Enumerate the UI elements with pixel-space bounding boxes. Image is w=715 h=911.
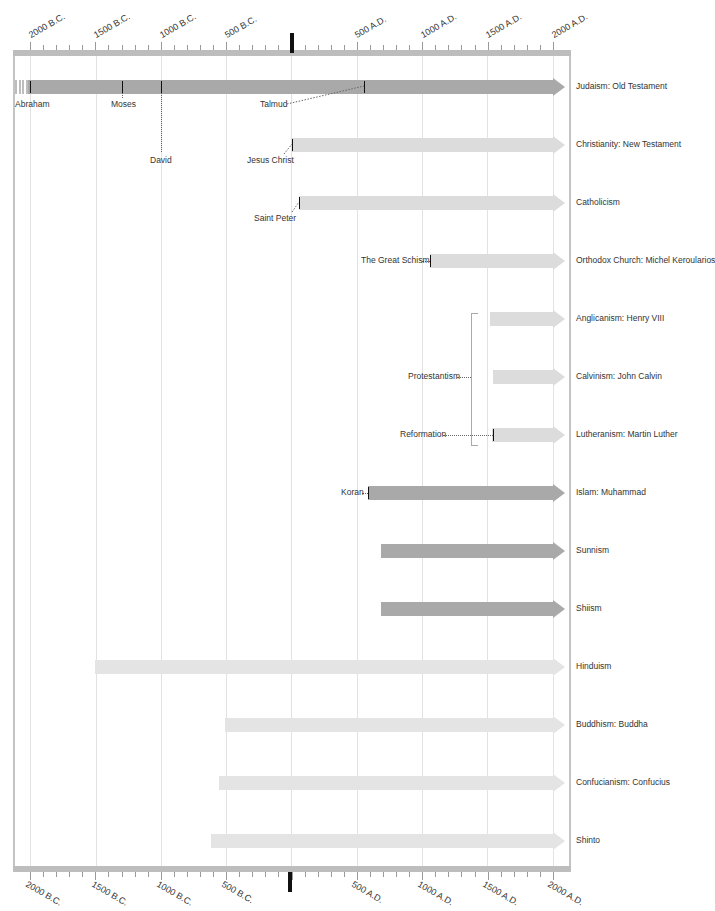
axis-tick	[135, 872, 136, 877]
bottom-tick-label: 1000 A.D.	[416, 879, 455, 907]
row-label-catholicism: Catholicism	[576, 197, 620, 207]
axis-tick	[357, 872, 358, 880]
axis-tick	[43, 45, 44, 50]
event-abraham: Abraham	[15, 99, 50, 109]
axis-tick	[278, 45, 279, 50]
axis-tick	[174, 45, 175, 50]
bar-lutheranism	[492, 428, 566, 442]
axis-tick	[488, 42, 489, 50]
reformation-marker	[493, 429, 494, 441]
moses-leader	[122, 93, 123, 98]
row-label-buddhism: Buddhism: Buddha	[576, 719, 648, 729]
axis-tick	[148, 872, 149, 877]
event-jesus-christ: Jesus Christ	[247, 155, 294, 165]
axis-tick	[435, 45, 436, 50]
axis-tick	[148, 45, 149, 50]
axis-tick	[213, 45, 214, 50]
axis-tick	[278, 872, 279, 877]
top-tick-label: 1000 B.C.	[158, 11, 198, 40]
axis-tick	[226, 42, 227, 50]
event-reformation: Reformation	[400, 429, 446, 439]
bar-catholicism	[299, 196, 566, 210]
axis-tick	[187, 45, 188, 50]
top-tick-label: 1000 A.D.	[419, 12, 458, 40]
axis-tick	[475, 872, 476, 877]
gridline-1500bc	[96, 56, 97, 866]
axis-tick	[135, 45, 136, 50]
axis-tick	[475, 45, 476, 50]
gridline-2000bc	[30, 56, 31, 866]
bar-shiism	[381, 602, 566, 616]
david-leader	[161, 93, 162, 152]
top-tick-label: 2000 B.C.	[27, 11, 67, 40]
abraham-marker	[30, 81, 31, 93]
bar-confucianism	[219, 776, 566, 790]
row-label-anglicanism: Anglicanism: Henry VIII	[576, 313, 664, 323]
axis-tick	[331, 872, 332, 877]
axis-tick	[370, 45, 371, 50]
axis-tick	[265, 45, 266, 50]
row-label-christianity: Christianity: New Testament	[576, 139, 681, 149]
bottom-tick-label: 500 A.D.	[350, 879, 385, 905]
reformation-leader	[443, 435, 493, 436]
event-saint-peter: Saint Peter	[254, 213, 296, 223]
axis-tick	[370, 872, 371, 877]
axis-tick	[239, 45, 240, 50]
bar-calvinism	[493, 370, 566, 384]
axis-tick	[435, 872, 436, 877]
bar-christianity	[292, 138, 566, 152]
axis-tick	[43, 872, 44, 877]
axis-tick	[448, 45, 449, 50]
event-talmud: Talmud	[260, 99, 287, 109]
row-label-lutheranism: Lutheranism: Martin Luther	[576, 429, 678, 439]
great-schism-marker	[430, 255, 431, 267]
bar-anglicanism	[490, 312, 566, 326]
event-david: David	[150, 155, 172, 165]
axis-tick	[187, 872, 188, 877]
axis-tick	[396, 872, 397, 877]
row-label-shiism: Shiism	[576, 603, 602, 613]
axis-tick	[305, 45, 306, 50]
event-moses: Moses	[111, 99, 136, 109]
axis-tick	[56, 45, 57, 50]
gridline-0	[291, 56, 292, 866]
bar-orthodox	[430, 254, 566, 268]
axis-tick	[305, 872, 306, 877]
row-label-hinduism: Hinduism	[576, 661, 611, 671]
axis-tick	[292, 872, 293, 880]
axis-tick	[540, 45, 541, 50]
top-tick-label: 500 A.D.	[353, 14, 388, 40]
axis-tick	[318, 872, 319, 877]
axis-tick	[514, 45, 515, 50]
axis-tick	[69, 45, 70, 50]
axis-tick	[396, 45, 397, 50]
gridline-1000bc	[161, 56, 162, 866]
bar-buddhism	[225, 718, 566, 732]
bottom-tick-label: 1000 B.C.	[155, 879, 195, 908]
bottom-tick-label: 1500 B.C.	[90, 879, 130, 908]
koran-marker	[368, 487, 369, 499]
axis-tick	[69, 872, 70, 877]
frame-right-border	[569, 50, 571, 872]
event-protestantism: Protestantism	[408, 371, 460, 381]
axis-tick	[331, 45, 332, 50]
axis-tick	[122, 45, 123, 50]
row-label-calvinism: Calvinism: John Calvin	[576, 371, 662, 381]
axis-tick	[383, 872, 384, 877]
axis-tick	[108, 45, 109, 50]
moses-marker	[122, 81, 123, 93]
axis-tick	[461, 45, 462, 50]
bottom-tick-label: 2000 A.D.	[546, 879, 585, 907]
row-label-orthodox: Orthodox Church: Michel Keroularios	[576, 255, 715, 265]
axis-tick	[448, 872, 449, 877]
axis-tick	[422, 42, 423, 50]
axis-tick	[527, 45, 528, 50]
axis-tick	[56, 872, 57, 877]
gridline-500bc	[226, 56, 227, 866]
axis-tick	[344, 45, 345, 50]
axis-tick	[95, 42, 96, 50]
gridline-1500ad	[487, 56, 488, 866]
axis-tick	[200, 45, 201, 50]
axis-tick	[409, 45, 410, 50]
axis-tick	[213, 872, 214, 877]
